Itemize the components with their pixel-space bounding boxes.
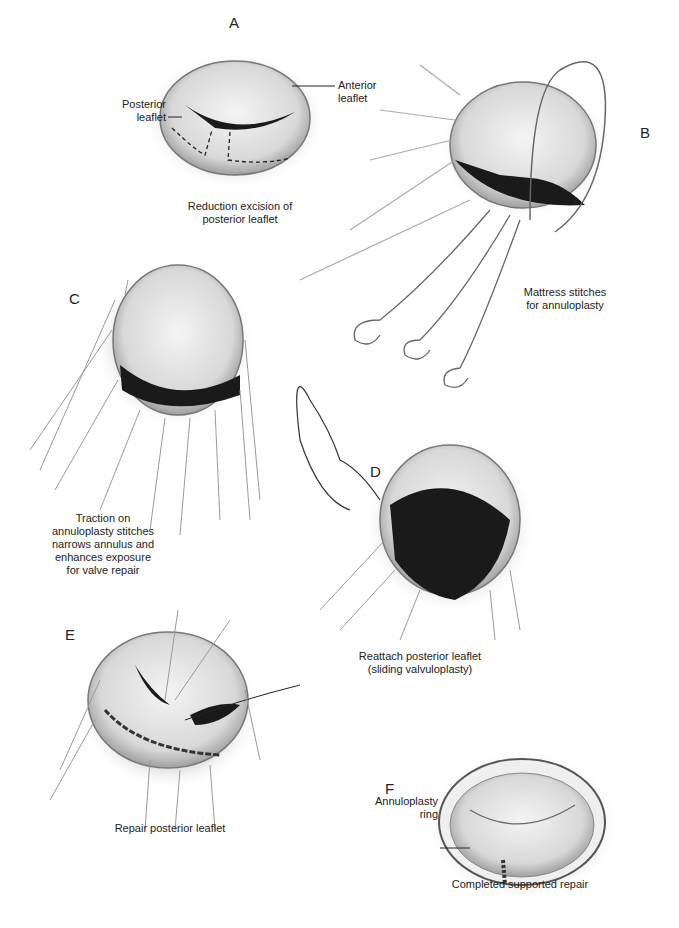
label-line: leaflet [104, 111, 166, 124]
caption-line: for valve repair [38, 564, 168, 577]
label-line: leaflet [338, 92, 377, 105]
caption-line: enhances exposure [38, 551, 168, 564]
caption-line: posterior leaflet [160, 213, 320, 226]
annuloplasty-ring-label: Annuloplasty ring [350, 795, 438, 821]
caption-f: Completed supported repair [440, 878, 600, 891]
label-line: Annuloplasty [350, 795, 438, 808]
caption-d: Reattach posterior leaflet (sliding valv… [345, 650, 495, 676]
label-line: Anterior [338, 79, 377, 92]
panel-letter-d: D [370, 463, 381, 480]
caption-e: Repair posterior leaflet [100, 822, 240, 835]
panel-d-valve [297, 387, 535, 640]
label-line: ring [350, 808, 438, 821]
caption-line: narrows annulus and [38, 538, 168, 551]
caption-line: annuloplasty stitches [38, 525, 168, 538]
panel-letter-b: B [640, 124, 650, 141]
caption-line: Reduction excision of [160, 200, 320, 213]
panel-e-valve [50, 610, 300, 830]
panel-a-valve [145, 52, 335, 188]
valve-illustrations [0, 0, 679, 928]
label-line: Posterior [104, 98, 166, 111]
panel-b-valve [300, 62, 610, 388]
caption-line: (sliding valvuloplasty) [345, 663, 495, 676]
anterior-leaflet-label: Anterior leaflet [338, 79, 377, 105]
panel-letter-e: E [65, 626, 75, 643]
panel-c-valve [30, 263, 260, 535]
caption-line: Reattach posterior leaflet [345, 650, 495, 663]
caption-line: Mattress stitches [500, 286, 630, 299]
caption-line: Completed supported repair [440, 878, 600, 891]
caption-a: Reduction excision of posterior leaflet [160, 200, 320, 226]
posterior-leaflet-label: Posterior leaflet [104, 98, 166, 124]
caption-b: Mattress stitches for annuloplasty [500, 286, 630, 312]
panel-letter-a: A [229, 14, 239, 31]
caption-line: for annuloplasty [500, 299, 630, 312]
caption-c: Traction on annuloplasty stitches narrow… [38, 512, 168, 577]
caption-line: Repair posterior leaflet [100, 822, 240, 835]
caption-line: Traction on [38, 512, 168, 525]
panel-letter-c: C [69, 290, 80, 307]
